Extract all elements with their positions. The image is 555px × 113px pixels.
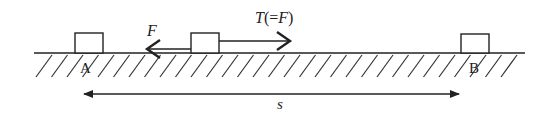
tension-arrow (219, 32, 290, 50)
label-displacement: s (277, 96, 283, 112)
ground-hatching (36, 55, 517, 77)
label-b: B (469, 60, 479, 76)
block-a (75, 33, 103, 53)
label-a: A (80, 60, 91, 76)
physics-diagram: A B F T(=F) s (0, 0, 555, 113)
block-moving (191, 33, 219, 53)
diagram-canvas: A B F T(=F) s (0, 0, 555, 113)
label-friction-force: F (146, 22, 157, 39)
label-tension-force: T(=F) (255, 9, 293, 27)
block-b (461, 34, 489, 53)
friction-arrow (147, 40, 191, 58)
